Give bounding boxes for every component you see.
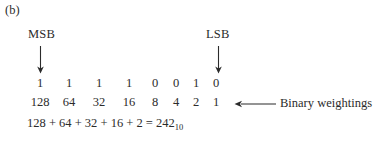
bit-value: 1 <box>26 74 54 93</box>
msb-label: MSB <box>28 27 55 41</box>
binary-weighting-table: 1 1 1 1 0 0 1 0 128 64 32 16 8 4 2 1 <box>26 74 226 112</box>
bit-value: 0 <box>166 74 186 93</box>
lsb-label: LSB <box>206 27 230 41</box>
bit-value: 1 <box>186 74 206 93</box>
lsb-down-arrow-icon <box>213 46 224 74</box>
weight-value: 64 <box>54 93 84 112</box>
bit-value: 0 <box>206 74 226 93</box>
msb-down-arrow-icon <box>35 46 46 74</box>
weight-value: 8 <box>144 93 166 112</box>
weight-value: 128 <box>26 93 54 112</box>
binary-weightings-callout: Binary weightings <box>234 94 372 113</box>
figure-part-label: (b) <box>5 3 20 17</box>
weight-value: 1 <box>206 93 226 112</box>
binary-weightings-label: Binary weightings <box>280 94 372 113</box>
bit-value: 1 <box>114 74 144 93</box>
sum-expression: 128 + 64 + 32 + 16 + 2 = 24210 <box>27 114 183 134</box>
sum-expression-text: 128 + 64 + 32 + 16 + 2 = 242 <box>27 116 175 130</box>
sum-base-subscript: 10 <box>175 122 184 132</box>
weight-value: 2 <box>186 93 206 112</box>
weight-value: 16 <box>114 93 144 112</box>
left-arrow-icon <box>234 99 276 109</box>
bit-value: 1 <box>54 74 84 93</box>
bit-value: 0 <box>144 74 166 93</box>
bit-value: 1 <box>84 74 114 93</box>
weight-value: 32 <box>84 93 114 112</box>
weight-value: 4 <box>166 93 186 112</box>
